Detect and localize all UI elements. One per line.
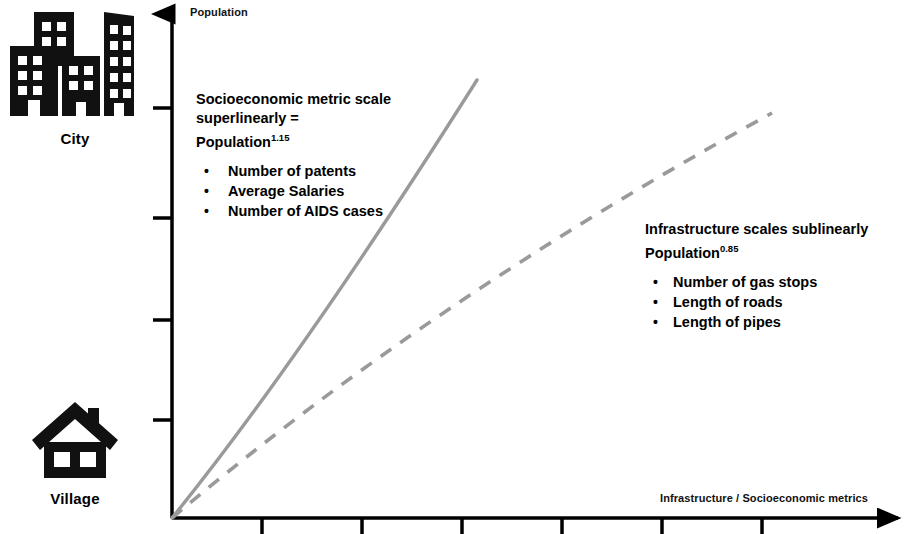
sublinear-heading: Infrastructure scales sublinearly Popula… [645,220,895,263]
bullet-icon: • [204,202,209,221]
sublinear-heading-line1: Infrastructure scales sublinearly [645,221,868,237]
x-axis [172,518,898,534]
list-item: • Average Salaries [196,182,396,201]
list-item: • Length of pipes [645,313,895,332]
list-item: • Length of roads [645,293,895,312]
y-axis-label: Population [190,6,248,18]
x-axis-label: Infrastructure / Socioeconomic metrics [660,492,868,504]
list-item-label: Number of gas stops [673,273,895,292]
superlinear-exponent: 1.15 [271,132,290,143]
list-item-label: Number of AIDS cases [228,202,396,221]
list-item-label: Length of pipes [673,313,895,332]
list-item-label: Number of patents [228,162,396,181]
list-item: • Number of patents [196,162,396,181]
superlinear-heading-line1: Socioeconomic metric scale [196,91,391,107]
sublinear-bullet-list: • Number of gas stops • Length of roads … [645,273,895,332]
bullet-icon: • [653,293,658,312]
list-item-label: Length of roads [673,293,895,312]
bullet-icon: • [653,313,658,332]
superlinear-bullet-list: • Number of patents • Average Salaries •… [196,162,396,221]
bullet-icon: • [204,162,209,181]
sublinear-heading-base: Population [645,245,720,261]
diagram-canvas: City Village [0,0,904,534]
superlinear-heading-base: Population [196,134,271,150]
superlinear-annotation: Socioeconomic metric scale superlinearly… [196,90,396,222]
list-item-label: Average Salaries [228,182,396,201]
sublinear-exponent: 0.85 [720,243,739,254]
sublinear-annotation: Infrastructure scales sublinearly Popula… [645,220,895,333]
y-axis [153,14,172,518]
list-item: • Number of AIDS cases [196,202,396,221]
list-item: • Number of gas stops [645,273,895,292]
superlinear-heading: Socioeconomic metric scale superlinearly… [196,90,396,152]
superlinear-heading-line2: superlinearly = [196,110,299,126]
bullet-icon: • [204,182,209,201]
bullet-icon: • [653,273,658,292]
